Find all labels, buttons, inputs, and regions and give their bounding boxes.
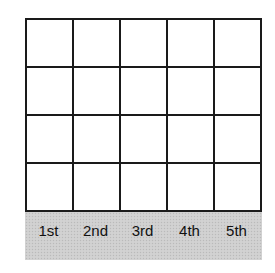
grid-cell-r4-c3 xyxy=(121,164,168,212)
grid-cell-r2-c5 xyxy=(215,68,262,116)
grid-cell-r3-c3 xyxy=(121,116,168,164)
column-label-2nd: 2nd xyxy=(72,212,119,260)
column-label-4th: 4th xyxy=(166,212,213,260)
grid-cell-r1-c3 xyxy=(121,20,168,68)
grid-cell-r1-c1 xyxy=(27,20,74,68)
grid-cell-r3-c4 xyxy=(168,116,215,164)
grid-cell-r4-c4 xyxy=(168,164,215,212)
grid-cell-r2-c1 xyxy=(27,68,74,116)
grid-cell-r2-c4 xyxy=(168,68,215,116)
column-label-band: 1st 2nd 3rd 4th 5th xyxy=(25,212,262,260)
grid-cell-r2-c2 xyxy=(74,68,121,116)
column-label-3rd: 3rd xyxy=(119,212,166,260)
grid-cell-r1-c4 xyxy=(168,20,215,68)
grid-cell-r1-c5 xyxy=(215,20,262,68)
column-label-5th: 5th xyxy=(213,212,260,260)
empty-grid xyxy=(25,18,262,212)
grid-cell-r4-c2 xyxy=(74,164,121,212)
grid-cell-r4-c1 xyxy=(27,164,74,212)
grid-cell-r3-c1 xyxy=(27,116,74,164)
grid-cell-r3-c5 xyxy=(215,116,262,164)
grid-cell-r3-c2 xyxy=(74,116,121,164)
grid-cell-r1-c2 xyxy=(74,20,121,68)
grid-cell-r2-c3 xyxy=(121,68,168,116)
column-label-1st: 1st xyxy=(25,212,72,260)
grid-diagram: 1st 2nd 3rd 4th 5th xyxy=(26,19,261,260)
grid-cell-r4-c5 xyxy=(215,164,262,212)
